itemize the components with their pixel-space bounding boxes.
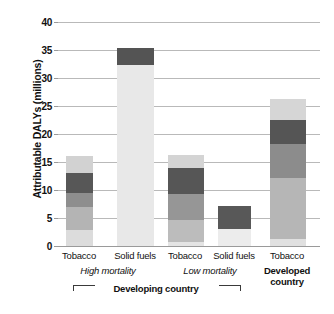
bar-3 xyxy=(218,206,251,246)
group-label-developed-country: Developed country xyxy=(252,265,322,287)
group-label-low-mortality: Low mortality xyxy=(160,265,260,276)
bar-0-segment-4 xyxy=(66,156,93,172)
bar-4-segment-2 xyxy=(270,144,306,178)
plot-area xyxy=(58,22,320,246)
y-axis-ticks: 0510152025303540 xyxy=(22,22,52,246)
y-tick-label-30: 30 xyxy=(26,73,52,84)
y-tick-label-15: 15 xyxy=(26,157,52,168)
bar-1-segment-1 xyxy=(117,48,154,65)
gridline-40 xyxy=(58,22,320,23)
bar-4-segment-3 xyxy=(270,120,306,144)
bracket-label-developing-country: Developing country xyxy=(78,283,234,294)
bar-2 xyxy=(168,155,204,246)
bar-0 xyxy=(66,156,93,246)
bar-3-segment-0 xyxy=(218,229,251,246)
bar-0-segment-3 xyxy=(66,173,93,193)
bar-2-segment-3 xyxy=(168,168,204,195)
gridline-35 xyxy=(58,50,320,51)
bar-2-segment-2 xyxy=(168,194,204,219)
bar-0-segment-2 xyxy=(66,193,93,207)
bar-2-segment-0 xyxy=(168,242,204,246)
gridline-30 xyxy=(58,78,320,79)
gridline-0 xyxy=(58,246,320,247)
bar-4-segment-4 xyxy=(270,99,306,120)
bar-1 xyxy=(117,48,154,246)
bar-4-segment-1 xyxy=(270,178,306,240)
group-label-developed-line1: Developed xyxy=(252,265,322,276)
bar-4-segment-0 xyxy=(270,239,306,246)
y-tick-label-5: 5 xyxy=(26,213,52,224)
y-tick-label-40: 40 xyxy=(26,17,52,28)
group-label-developed-line2: country xyxy=(252,276,322,287)
y-tick-label-35: 35 xyxy=(26,45,52,56)
y-tick-label-10: 10 xyxy=(26,185,52,196)
bar-4 xyxy=(270,99,306,246)
y-tick-label-25: 25 xyxy=(26,101,52,112)
bar-1-segment-0 xyxy=(117,65,154,246)
y-tick-label-20: 20 xyxy=(26,129,52,140)
chart-container: Attributable DALYs (millions) 0510152025… xyxy=(0,0,334,314)
bar-3-segment-1 xyxy=(218,206,251,230)
group-label-high-mortality: High mortality xyxy=(58,265,158,276)
category-label-4: Tobacco xyxy=(254,250,320,261)
bar-2-segment-1 xyxy=(168,220,204,242)
bar-2-segment-4 xyxy=(168,155,204,168)
bar-0-segment-1 xyxy=(66,207,93,230)
bar-0-segment-0 xyxy=(66,230,93,246)
